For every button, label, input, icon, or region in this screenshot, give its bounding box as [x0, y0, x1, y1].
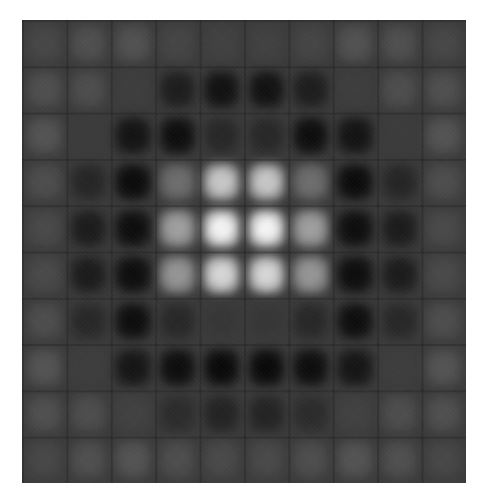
grid-cell	[22, 437, 66, 483]
grid-cell	[200, 344, 244, 390]
grid-cell	[333, 344, 377, 390]
intensity-blob	[70, 348, 107, 387]
grid-cell	[66, 390, 110, 436]
intensity-blob	[336, 163, 373, 202]
grid-cell	[422, 298, 466, 344]
intensity-blob	[336, 302, 373, 341]
intensity-blob	[26, 70, 63, 109]
grid-cell	[377, 205, 421, 251]
intensity-blob	[70, 255, 107, 294]
intensity-blob	[381, 209, 418, 248]
intensity-blob	[381, 302, 418, 341]
grid-cell	[155, 66, 199, 112]
grid-cell	[422, 205, 466, 251]
grid-cell	[66, 437, 110, 483]
grid-cell	[22, 20, 66, 66]
grid-cell	[22, 205, 66, 251]
intensity-blob	[336, 348, 373, 387]
grid-cell	[422, 251, 466, 297]
intensity-blob	[26, 24, 63, 63]
grid-cell	[288, 20, 332, 66]
grid-cell	[244, 113, 288, 159]
grid-cell	[111, 66, 155, 112]
grid-cell	[333, 113, 377, 159]
grid-cell	[244, 205, 288, 251]
intensity-blob	[203, 24, 240, 63]
intensity-blob	[70, 209, 107, 248]
grid-cell	[111, 344, 155, 390]
grid-cell	[333, 20, 377, 66]
grid-cell	[111, 113, 155, 159]
intensity-blob	[70, 163, 107, 202]
grid-cell	[66, 159, 110, 205]
intensity-blob	[159, 255, 196, 294]
grid-cell	[200, 159, 244, 205]
intensity-blob	[336, 70, 373, 109]
grid-cell	[200, 205, 244, 251]
intensity-blob	[292, 24, 329, 63]
grid-cell	[422, 20, 466, 66]
intensity-blob	[159, 209, 196, 248]
intensity-blob	[159, 24, 196, 63]
intensity-blob	[114, 348, 151, 387]
intensity-blob	[26, 255, 63, 294]
intensity-blob	[425, 302, 462, 341]
grid-cell	[22, 344, 66, 390]
intensity-blob	[336, 440, 373, 479]
grid-cell	[288, 159, 332, 205]
grid-cell	[377, 390, 421, 436]
grid-cell	[111, 298, 155, 344]
grid-cell	[111, 205, 155, 251]
grid-cell	[377, 66, 421, 112]
grid-cell	[244, 390, 288, 436]
intensity-blob	[159, 394, 196, 433]
intensity-blob	[248, 209, 285, 248]
intensity-blob	[203, 394, 240, 433]
grid-cell	[288, 298, 332, 344]
intensity-blob	[159, 348, 196, 387]
intensity-blob	[425, 440, 462, 479]
grid-cell	[377, 20, 421, 66]
grid-cell	[155, 298, 199, 344]
intensity-blob	[292, 440, 329, 479]
grid-cell	[333, 159, 377, 205]
grid-cell	[377, 298, 421, 344]
intensity-blob	[114, 394, 151, 433]
grid-cell	[200, 113, 244, 159]
grid-cell	[66, 344, 110, 390]
intensity-blob	[203, 348, 240, 387]
intensity-blob	[381, 24, 418, 63]
intensity-blob	[292, 70, 329, 109]
grid-cell	[244, 344, 288, 390]
grid-cell	[155, 344, 199, 390]
grid-cell	[22, 251, 66, 297]
intensity-blob	[70, 394, 107, 433]
intensity-blob	[248, 394, 285, 433]
grid-cell	[66, 205, 110, 251]
intensity-blob	[114, 209, 151, 248]
intensity-blob	[114, 302, 151, 341]
intensity-blob	[292, 209, 329, 248]
grid-cell	[111, 159, 155, 205]
grid-cell	[288, 437, 332, 483]
grid-cell	[155, 159, 199, 205]
grid-cell	[111, 437, 155, 483]
grid-cell	[155, 205, 199, 251]
grid-cell	[244, 159, 288, 205]
intensity-blob	[381, 70, 418, 109]
grid-cell	[200, 66, 244, 112]
grid-cell	[244, 20, 288, 66]
grid-cell	[200, 251, 244, 297]
grid-cell	[422, 437, 466, 483]
grid-cell	[333, 66, 377, 112]
grid-cell	[422, 344, 466, 390]
intensity-blob	[292, 116, 329, 155]
intensity-blob	[292, 348, 329, 387]
intensity-blob	[159, 440, 196, 479]
intensity-blob	[114, 70, 151, 109]
intensity-blob	[203, 302, 240, 341]
intensity-blob	[248, 348, 285, 387]
intensity-blob	[248, 24, 285, 63]
intensity-blob	[292, 394, 329, 433]
intensity-blob	[159, 163, 196, 202]
